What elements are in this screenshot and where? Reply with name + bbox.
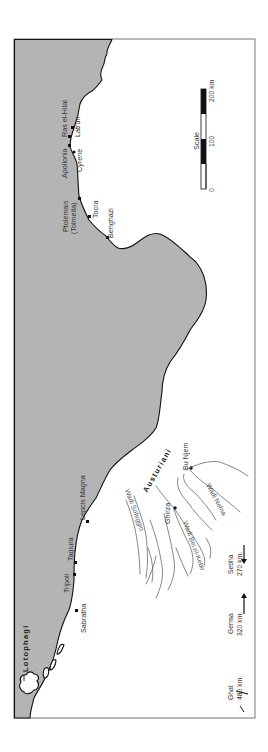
site-dot-tripoli — [73, 573, 76, 576]
label-tocra: Tocra — [91, 200, 100, 218]
scale-bar — [201, 89, 206, 189]
label-sabratha: Sabratha — [79, 604, 88, 633]
label-scale-0: 0 — [208, 188, 215, 192]
label-germa: Germa — [227, 613, 234, 634]
label-scale-100: 100 — [208, 135, 215, 147]
site-dot-apollonia — [68, 144, 71, 147]
label-ghat: Ghat — [227, 685, 234, 700]
label-germa-distance: 320 km. — [236, 612, 243, 636]
label-scale-title: Scale — [192, 132, 201, 150]
label-ras-el-hilal: Ras el-Hilal — [60, 100, 69, 137]
label-lepcis-magna: Lepcis Magna — [78, 475, 87, 520]
label-austuriani: Austuriani — [141, 447, 174, 494]
label-latrun: Latrun — [73, 117, 82, 137]
label-tagiura: Tagiura — [66, 537, 75, 561]
label-ghat-distance: 480 km. — [236, 676, 243, 700]
label-tolmeita: (Tolmeita) — [69, 202, 78, 234]
site-dot-ptolemais — [78, 197, 81, 200]
label-wadi-bei-el-kebir: Wadi Bei el-Kebir — [182, 520, 207, 572]
lagoon-3 — [57, 644, 64, 654]
site-dot-sabratha — [75, 609, 78, 612]
sea-area — [15, 40, 207, 719]
label-cyrene: Cyrene — [75, 149, 84, 172]
label-ghirza: Ghirza — [163, 503, 172, 524]
label-sebha-distance: 270 km. — [236, 552, 243, 576]
label-benghazi: Benghazi — [106, 208, 115, 238]
label-lotophagi: Lotophagi — [21, 625, 30, 673]
label-tripoli: Tripoli — [62, 573, 71, 593]
label-scale-200: 200 km — [208, 79, 215, 102]
label-bu-njem: Bu Njem — [181, 442, 190, 470]
map-canvas: Ras el-Hilal Latrun Apollonia Cyrene Pto… — [0, 0, 268, 752]
label-apollonia: Apollonia — [60, 148, 69, 178]
lagoon-1 — [43, 668, 49, 678]
label-sebha: Sebha — [227, 554, 234, 574]
